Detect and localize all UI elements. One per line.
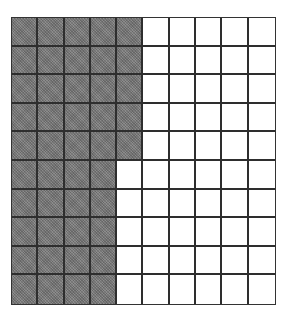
shaded-cell <box>65 47 91 76</box>
shaded-cell <box>91 47 117 76</box>
shaded-cell <box>12 75 38 104</box>
unshaded-cell <box>170 218 196 247</box>
shaded-cell <box>38 275 64 304</box>
unshaded-cell <box>222 247 248 276</box>
unshaded-cell <box>170 47 196 76</box>
unshaded-cell <box>196 190 222 219</box>
shaded-cell <box>38 132 64 161</box>
shaded-cell <box>91 18 117 47</box>
unshaded-cell <box>143 47 169 76</box>
unshaded-cell <box>196 132 222 161</box>
shaded-cell <box>65 75 91 104</box>
shaded-cell <box>91 132 117 161</box>
unshaded-cell <box>222 18 248 47</box>
shaded-cell <box>117 132 143 161</box>
unshaded-cell <box>196 275 222 304</box>
shaded-cell <box>91 190 117 219</box>
shaded-cell <box>65 18 91 47</box>
unshaded-cell <box>196 75 222 104</box>
shaded-cell <box>12 161 38 190</box>
shaded-cell <box>65 161 91 190</box>
unshaded-cell <box>249 75 275 104</box>
unshaded-cell <box>249 247 275 276</box>
shaded-cell <box>38 247 64 276</box>
unshaded-cell <box>249 218 275 247</box>
unshaded-cell <box>143 190 169 219</box>
unshaded-cell <box>143 161 169 190</box>
unshaded-cell <box>222 75 248 104</box>
shaded-cell <box>38 161 64 190</box>
unshaded-cell <box>222 161 248 190</box>
shaded-cell <box>91 75 117 104</box>
unshaded-cell <box>143 218 169 247</box>
unshaded-cell <box>196 47 222 76</box>
shaded-cell <box>12 47 38 76</box>
shaded-cell <box>38 104 64 133</box>
unshaded-cell <box>249 18 275 47</box>
shaded-cell <box>117 18 143 47</box>
shaded-cell <box>65 218 91 247</box>
unshaded-cell <box>143 247 169 276</box>
unshaded-cell <box>196 104 222 133</box>
unshaded-cell <box>222 275 248 304</box>
unshaded-cell <box>222 47 248 76</box>
unshaded-cell <box>196 218 222 247</box>
hundred-grid <box>11 17 276 305</box>
shaded-cell <box>12 275 38 304</box>
unshaded-cell <box>196 247 222 276</box>
unshaded-cell <box>249 104 275 133</box>
shaded-cell <box>117 75 143 104</box>
unshaded-cell <box>222 190 248 219</box>
shaded-cell <box>12 218 38 247</box>
unshaded-cell <box>170 161 196 190</box>
shaded-cell <box>38 218 64 247</box>
shaded-cell <box>65 104 91 133</box>
shaded-cell <box>91 161 117 190</box>
unshaded-cell <box>170 275 196 304</box>
unshaded-cell <box>170 75 196 104</box>
shaded-cell <box>12 132 38 161</box>
unshaded-cell <box>222 104 248 133</box>
shaded-cell <box>12 247 38 276</box>
unshaded-cell <box>143 132 169 161</box>
unshaded-cell <box>143 18 169 47</box>
shaded-cell <box>38 75 64 104</box>
unshaded-cell <box>249 190 275 219</box>
unshaded-cell <box>249 275 275 304</box>
unshaded-cell <box>143 75 169 104</box>
shaded-cell <box>65 132 91 161</box>
unshaded-cell <box>117 190 143 219</box>
unshaded-cell <box>170 18 196 47</box>
shaded-cell <box>91 218 117 247</box>
unshaded-cell <box>170 190 196 219</box>
unshaded-cell <box>143 104 169 133</box>
shaded-cell <box>38 190 64 219</box>
shaded-cell <box>38 18 64 47</box>
unshaded-cell <box>249 132 275 161</box>
unshaded-cell <box>170 247 196 276</box>
shaded-cell <box>117 104 143 133</box>
shaded-cell <box>117 47 143 76</box>
shaded-cell <box>38 47 64 76</box>
unshaded-cell <box>143 275 169 304</box>
shaded-cell <box>12 104 38 133</box>
shaded-cell <box>12 190 38 219</box>
unshaded-cell <box>117 218 143 247</box>
unshaded-cell <box>249 47 275 76</box>
unshaded-cell <box>249 161 275 190</box>
unshaded-cell <box>196 161 222 190</box>
shaded-cell <box>65 190 91 219</box>
unshaded-cell <box>222 132 248 161</box>
unshaded-cell <box>117 247 143 276</box>
shaded-cell <box>91 247 117 276</box>
unshaded-cell <box>117 275 143 304</box>
shaded-cell <box>91 275 117 304</box>
unshaded-cell <box>196 18 222 47</box>
unshaded-cell <box>170 132 196 161</box>
unshaded-cell <box>170 104 196 133</box>
shaded-cell <box>65 247 91 276</box>
unshaded-cell <box>222 218 248 247</box>
unshaded-cell <box>117 161 143 190</box>
shaded-cell <box>65 275 91 304</box>
shaded-cell <box>12 18 38 47</box>
